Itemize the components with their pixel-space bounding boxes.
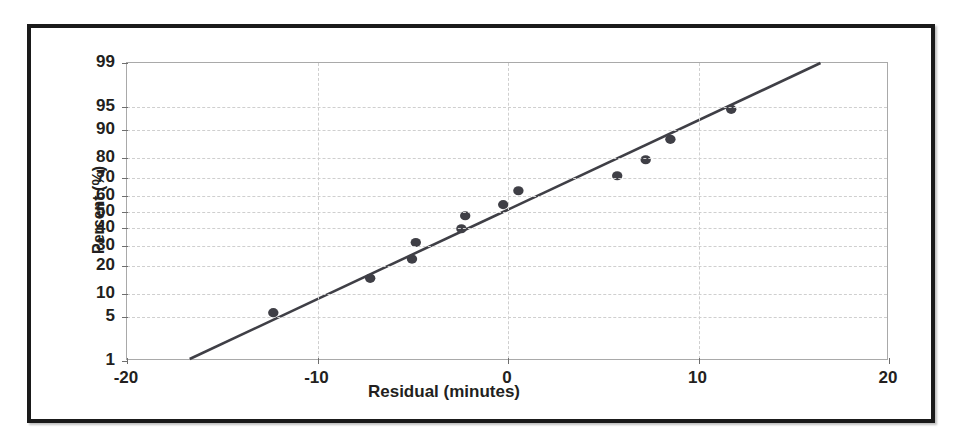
gridline-horizontal <box>127 266 887 267</box>
gridline-horizontal <box>127 158 887 159</box>
gridline-vertical <box>318 63 319 359</box>
gridline-horizontal <box>127 130 887 131</box>
y-axis-tick-label: 80 <box>96 148 115 165</box>
gridline-horizontal <box>127 107 887 108</box>
gridline-vertical <box>508 63 509 359</box>
y-axis-tick-label: 50 <box>96 202 115 219</box>
x-axis-tick-label: 20 <box>879 369 898 386</box>
x-axis-tick <box>699 358 700 364</box>
y-axis-tick-label: 60 <box>96 186 115 203</box>
gridline-horizontal <box>127 294 887 295</box>
y-axis-tick-label: 30 <box>96 236 115 253</box>
y-axis-tick <box>122 317 128 318</box>
y-axis-tick-label: 20 <box>96 256 115 273</box>
x-axis-tick <box>508 358 509 364</box>
data-point <box>498 200 508 209</box>
gridline-horizontal <box>127 212 887 213</box>
y-axis-tick <box>122 246 128 247</box>
y-axis-tick <box>122 228 128 229</box>
y-axis-tick-label: 99 <box>96 53 115 70</box>
x-axis-tick <box>318 358 319 364</box>
x-axis-tick <box>889 358 890 364</box>
y-axis-tick-label: 10 <box>96 284 115 301</box>
y-axis-tick-label: 90 <box>96 120 115 137</box>
y-axis-tick <box>122 266 128 267</box>
x-axis-tick-label: 0 <box>502 369 511 386</box>
gridline-horizontal <box>127 196 887 197</box>
y-axis-tick <box>122 294 128 295</box>
y-axis-tick-label: 95 <box>96 97 115 114</box>
gridline-horizontal <box>127 178 887 179</box>
gridline-vertical <box>699 63 700 359</box>
x-axis-tick-label: -20 <box>114 369 139 386</box>
y-axis-tick <box>122 63 128 64</box>
normal-probability-plot: Percent (%) Residual (minutes) 151020304… <box>0 0 968 448</box>
data-point <box>513 186 523 195</box>
x-axis-tick-label: 10 <box>688 369 707 386</box>
y-axis-tick <box>122 130 128 131</box>
y-axis-tick-label: 70 <box>96 168 115 185</box>
gridline-horizontal <box>127 246 887 247</box>
y-axis-tick-label: 1 <box>106 351 115 368</box>
data-point <box>268 308 278 317</box>
gridline-horizontal <box>127 317 887 318</box>
y-axis-tick <box>122 158 128 159</box>
y-axis-tick <box>122 196 128 197</box>
plot-area <box>126 62 888 360</box>
y-axis-tick-label: 40 <box>96 218 115 235</box>
data-point <box>641 155 651 164</box>
y-axis-tick <box>122 107 128 108</box>
y-axis-tick <box>122 212 128 213</box>
gridline-horizontal <box>127 228 887 229</box>
x-axis-tick <box>127 358 128 364</box>
y-axis-tick-label: 5 <box>106 307 115 324</box>
x-axis-tick-label: -10 <box>304 369 329 386</box>
y-axis-tick <box>122 178 128 179</box>
